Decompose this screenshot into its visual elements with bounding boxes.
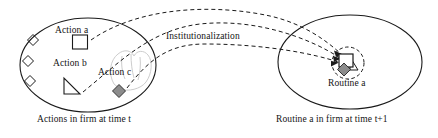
label-action-a: Action a [55,25,88,36]
label-routine-a: Routine a [328,78,366,89]
arrow-from-action-c [127,44,338,88]
label-institutionalization: Institutionalization [166,31,240,42]
label-action-b: Action b [53,58,87,69]
institutionalization-arrows [83,9,341,92]
diamond-unlabeled-1-icon [28,35,39,46]
caption-left-group: Actions in firm at time t [37,114,131,125]
label-action-c: Action c [98,67,131,78]
diamond-action-c-icon [113,85,126,98]
diagram-root: Action a Action b Action c Institutional… [0,0,438,138]
square-action-a-icon [73,35,88,49]
triangle-action-b-icon [64,78,80,94]
diamond-unlabeled-2-icon [23,56,34,67]
caption-right-group: Routine a in firm at time t+1 [276,114,388,125]
